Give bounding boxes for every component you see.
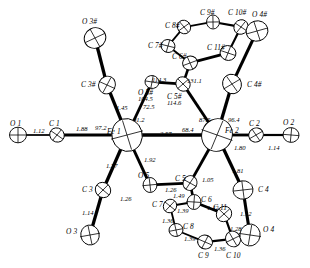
atom-label-C2: C 2: [249, 120, 260, 127]
ortep-structure-figure: O 1C 1Fe 1Fe 2C 2O 2C 3O 3C 3#O 3#O 5#C …: [0, 0, 310, 268]
atom-label-C3: C 3: [82, 186, 93, 193]
atom-label-C4: C 4: [258, 186, 269, 193]
bond-length-1-14: 1.14: [82, 210, 94, 217]
bond-length-1-42: 1.42: [207, 205, 219, 212]
atom-label-C8: C 8: [183, 223, 194, 230]
bond-length-1-28: 1.28: [230, 226, 242, 233]
atom-C3-sym: [96, 73, 119, 96]
bond-length-1-12: 1.12: [240, 211, 252, 218]
atom-C9-sym: [206, 15, 220, 29]
atom-label-O3-sym: O 3#: [82, 18, 97, 25]
bond-length-1-36: 1.36: [214, 246, 226, 253]
bond-angle-131-1: 131.1: [187, 78, 202, 85]
bond-length-1-45: 1.45: [116, 105, 128, 112]
bond-length-1-14: 1.14: [268, 145, 280, 152]
bond-C11#-C6#: [196, 53, 222, 63]
atom-label-C8-sym: C 8#: [165, 22, 180, 29]
atom-O1: [10, 127, 27, 143]
bond-C1-Fe1: [63, 134, 113, 137]
atom-O2: [282, 127, 299, 143]
bond-Fe1-Fe2: [141, 133, 204, 136]
atom-label-Fe2: Fe 2: [225, 127, 239, 134]
bond-length-1-88: 1.88: [76, 126, 88, 133]
bond-length-1-92: 1.92: [144, 157, 156, 164]
bond-length-1-39: 1.39: [184, 236, 196, 243]
atom-label-O4: O 4: [263, 226, 274, 233]
atom-label-C10: C 10: [226, 252, 241, 259]
atom-O4-sym: [244, 18, 271, 44]
bond-C10#-C11#: [230, 32, 239, 48]
atom-label-O2: O 2: [283, 119, 294, 126]
atom-label-C7: C 7: [152, 201, 163, 208]
atom-label-C5: C 5: [175, 175, 186, 182]
atom-label-O4-sym: O 4#: [252, 11, 267, 18]
atom-label-C3-sym: C 3#: [81, 81, 96, 88]
bond-angle-104-5: 104.5: [138, 96, 153, 103]
bond-length-1-36: 1.36: [162, 218, 174, 225]
bond-angle-91-2: 91.2: [133, 117, 145, 124]
atom-label-C11-sym: C 11#: [207, 44, 225, 51]
bond-length-1-77: 1.77: [106, 163, 118, 170]
bond-length-1-39: 1.39: [177, 208, 189, 215]
atom-C3: [92, 179, 114, 201]
bond-angle-87-5: 87.5: [199, 117, 211, 124]
atom-C9: [195, 233, 214, 252]
atom-label-C6: C 6: [201, 196, 212, 203]
bond-length-1-05: 1.05: [202, 177, 214, 184]
atom-label-Fe1: Fe 1: [107, 128, 121, 135]
bond-C9#-C10#: [218, 22, 235, 27]
bond-angle-68-4: 68.4: [182, 127, 194, 134]
atom-label-C9-sym: C 9#: [200, 9, 215, 16]
bond-C6-C7: [175, 202, 188, 206]
bond-C2-O2: [262, 134, 284, 136]
atom-label-O5: O 5: [138, 172, 149, 179]
atom-C4: [232, 180, 254, 201]
atom-C2: [246, 125, 266, 145]
atom-label-C1: C 1: [49, 120, 60, 127]
bond-length-2-57: 2.57: [160, 131, 172, 138]
bond-C4-Fe2: [221, 147, 241, 184]
bond-angle-97-2: 97.2: [95, 125, 107, 132]
atom-label-C9: C 9: [198, 252, 209, 259]
bond-length-1-80: 1.80: [234, 145, 246, 152]
atom-layer: [10, 15, 300, 252]
bond-angle-1-26: 1.26: [120, 196, 132, 203]
bond-length-1-81: 1.81: [232, 168, 244, 175]
atom-label-C10-sym: C 10#: [228, 9, 246, 16]
bond-C5-Fe2: [192, 146, 212, 178]
bond-O4#-C4#: [234, 39, 254, 78]
atom-O3-sym: [81, 24, 110, 52]
bond-length-1-12: 1.12: [33, 128, 45, 135]
bond-angle-114-3: 114.3: [152, 77, 166, 84]
bond-C8#-C9#: [190, 22, 208, 27]
bond-C9-C10: [211, 239, 227, 243]
bond-C7#-C8#: [171, 31, 181, 42]
bond-angle-96-4: 96.4: [228, 117, 240, 124]
bond-length-1-49: 1.49: [173, 193, 185, 200]
atom-label-O1: O 1: [10, 120, 21, 127]
atom-label-C6-sym: C 6#: [172, 53, 187, 60]
bond-angle-72-5: 72.5: [143, 104, 155, 111]
bond-angle-114-6: 114.6: [167, 100, 181, 107]
atom-label-C4-sym: C 4#: [247, 81, 262, 88]
atom-O3: [79, 223, 101, 246]
atom-label-C7-sym: C 7#: [148, 42, 163, 49]
atom-label-O3: O 3: [66, 228, 77, 235]
bond-C3#-O3#: [96, 46, 107, 78]
atom-C4-sym: [219, 71, 245, 98]
